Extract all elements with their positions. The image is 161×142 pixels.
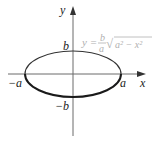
x-axis-label: x: [139, 76, 146, 90]
equation-frac-num: b: [100, 32, 105, 43]
ellipse-equation: y = b a √ a² − x²: [81, 32, 152, 54]
point-a-label: a: [120, 76, 126, 90]
equation-frac-den: a: [99, 43, 104, 54]
point-b-label: b: [63, 39, 69, 53]
point-neg-b-label: −b: [55, 99, 69, 113]
point-neg-a-label: −a: [8, 76, 22, 90]
radical-icon: √: [106, 36, 114, 51]
y-axis-label: y: [59, 3, 66, 17]
equation-radicand: a² − x²: [115, 39, 143, 50]
y-axis-arrow-icon: [70, 6, 76, 15]
equation-lhs: y =: [81, 36, 97, 48]
ellipse-diagram: y x b −b −a a y = b a √ a² − x²: [0, 0, 161, 142]
